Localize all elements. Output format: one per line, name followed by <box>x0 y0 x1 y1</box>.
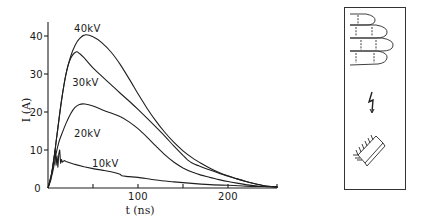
x-tick-label-200: 200 <box>218 191 238 202</box>
y-axis-title: I (A) <box>20 98 33 122</box>
y-tick-label-40: 40 <box>30 31 43 42</box>
series-label-20kv: 20kV <box>74 128 101 139</box>
inset-border <box>345 8 406 190</box>
y-tick-label-30: 30 <box>30 69 43 80</box>
curve-30kv <box>48 52 278 188</box>
curve-40kv <box>48 35 278 188</box>
x-tick-label-100: 100 <box>128 191 148 202</box>
current-vs-time-chart: 0 10 20 30 40 100 200 t (ns) I (A) 40kV … <box>0 0 426 223</box>
x-axis-title: t (ns) <box>125 204 154 217</box>
y-tick-label-0: 0 <box>34 183 41 194</box>
series-label-10kv: 10kV <box>92 158 119 169</box>
inset-panel <box>345 8 406 190</box>
curve-20kv <box>48 104 278 188</box>
series-label-30kv: 30kV <box>72 77 99 88</box>
y-ticks <box>44 36 48 150</box>
series-curves <box>48 35 278 188</box>
curve-10kv <box>48 150 278 188</box>
y-tick-label-10: 10 <box>30 145 43 156</box>
series-label-40kv: 40kV <box>74 23 101 34</box>
